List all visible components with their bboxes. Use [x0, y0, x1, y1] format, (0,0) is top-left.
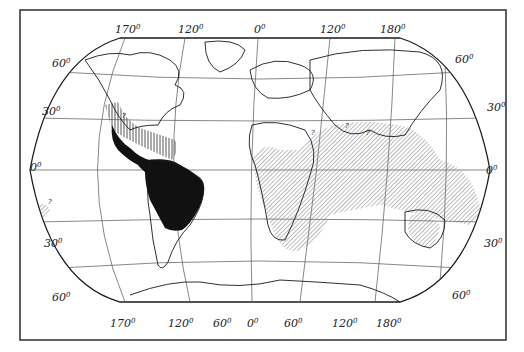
- lon-label-bottom-0: 00: [247, 318, 258, 329]
- uncertain-marker: ?: [48, 199, 52, 206]
- uncertain-marker: ?: [366, 130, 370, 137]
- range-diagonal-hatch-australia: [408, 214, 440, 248]
- range-diagonal-hatch-atlantic: [32, 204, 50, 220]
- lat-label-left-30s: 300: [44, 238, 62, 249]
- lon-label-bottom-180: 1800: [376, 318, 401, 329]
- lat-label-right-30s: 300: [484, 238, 502, 249]
- lat-label-right-60n: 600: [455, 54, 473, 65]
- lat-label-right-30n: 300: [487, 102, 505, 113]
- lon-label-top-120w: 1200: [178, 24, 203, 35]
- lat-label-left-60s: 600: [52, 292, 70, 303]
- lon-label-bottom-60w: 600: [213, 318, 231, 329]
- lat-label-right-0: 00: [486, 165, 497, 176]
- lon-label-bottom-60e: 600: [284, 318, 302, 329]
- map-canvas: [0, 0, 524, 352]
- lon-label-top-0: 00: [254, 24, 265, 35]
- uncertain-marker: ?: [311, 130, 315, 137]
- lon-label-top-170: 1700: [115, 24, 140, 35]
- lon-label-bottom-120w: 1200: [168, 318, 193, 329]
- uncertain-marker: ?: [345, 123, 349, 130]
- lat-label-left-0: 00: [30, 162, 41, 173]
- lon-label-bottom-170: 1700: [110, 318, 135, 329]
- lat-label-left-60n: 600: [52, 58, 70, 69]
- uncertain-marker: ?: [122, 113, 126, 120]
- lat-label-right-60s: 600: [452, 290, 470, 301]
- lon-label-top-120e: 1200: [320, 24, 345, 35]
- lat-label-left-30n: 300: [42, 106, 60, 117]
- lon-label-top-180: 1800: [380, 24, 405, 35]
- lon-label-bottom-120e: 1200: [332, 318, 357, 329]
- range-diagonal-hatch-oldworld: [252, 122, 480, 251]
- world-distribution-map: 1700 1200 00 1200 1800 1700 1200 600 00 …: [0, 0, 524, 352]
